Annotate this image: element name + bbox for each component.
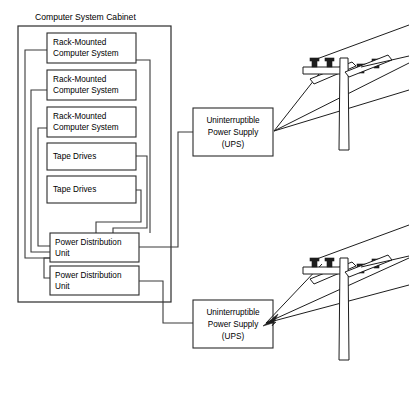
component-tape-2: Tape Drives: [47, 176, 136, 203]
ups-bottom: Uninterruptible Power Supply (UPS): [193, 300, 273, 348]
rack-1-label-line2: Computer System: [53, 49, 119, 58]
tape-2-label: Tape Drives: [53, 185, 96, 194]
ups-top-label-line1: Uninterruptible: [206, 116, 260, 125]
component-rack-2: Rack-Mounted Computer System: [47, 70, 136, 100]
pole-bottom-insulator-2: [325, 258, 334, 267]
ups-bottom-label-line2: Power Supply: [208, 320, 259, 329]
pdu-1-label-line2: Unit: [55, 249, 70, 258]
diagram-canvas: Computer System Cabinet Rack-Mounted Com…: [0, 0, 409, 393]
rack-3-label-line1: Rack-Mounted: [53, 112, 107, 121]
wire-leftbus-to-pdu2: [44, 272, 50, 278]
component-rack-3: Rack-Mounted Computer System: [47, 107, 136, 137]
component-pdu-2: Power Distribution Unit: [50, 266, 139, 295]
pole-bottom-line-1: [314, 225, 409, 260]
ups-bottom-label-line3: (UPS): [222, 332, 245, 341]
cabinet-title: Computer System Cabinet: [35, 12, 136, 22]
ups-top-label-line2: Power Supply: [208, 128, 259, 137]
utility-pole-top: [303, 25, 409, 150]
pole-top-crossarm-upper: [303, 67, 345, 74]
wire-pdu1-left-lead: [44, 258, 50, 272]
ups-bottom-label-line1: Uninterruptible: [206, 308, 260, 317]
rack-1-label-line1: Rack-Mounted: [53, 38, 107, 47]
rack-2-label-line1: Rack-Mounted: [53, 75, 107, 84]
pole-top-line-1: [314, 25, 409, 60]
power-distribution-diagram: Computer System Cabinet Rack-Mounted Com…: [0, 0, 409, 393]
pole-top-insulator-2: [325, 58, 334, 67]
pdu-2-label-line1: Power Distribution: [55, 271, 122, 280]
pole-bottom-crossarm-upper: [303, 267, 345, 274]
pdu-2-label-line2: Unit: [55, 282, 70, 291]
rack-3-label-line2: Computer System: [53, 123, 119, 132]
rack-2-label-line2: Computer System: [53, 86, 119, 95]
wire-rack1-right-to-pdu1: [136, 60, 150, 233]
tape-1-label: Tape Drives: [53, 152, 96, 161]
utility-pole-bottom: [303, 225, 409, 360]
pdu-1-label-line1: Power Distribution: [55, 238, 122, 247]
component-tape-1: Tape Drives: [47, 143, 136, 170]
ups-top: Uninterruptible Power Supply (UPS): [193, 108, 273, 156]
component-rack-1: Rack-Mounted Computer System: [47, 33, 136, 63]
component-pdu-1: Power Distribution Unit: [50, 233, 139, 262]
ups-top-label-line3: (UPS): [222, 140, 245, 149]
